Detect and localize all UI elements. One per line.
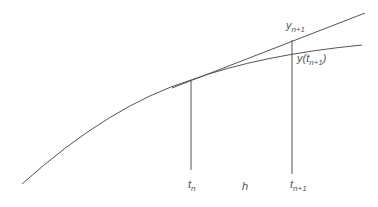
tangent-line (172, 13, 365, 88)
label-y-true: y(tn+1) (296, 52, 327, 67)
label-t-n: tn (188, 178, 196, 193)
label-y-next: yn+1 (285, 19, 305, 34)
label-t-next: tn+1 (290, 178, 307, 193)
euler-method-diagram: yn+1 y(tn+1) tn h tn+1 (0, 0, 378, 207)
label-h: h (242, 180, 248, 192)
